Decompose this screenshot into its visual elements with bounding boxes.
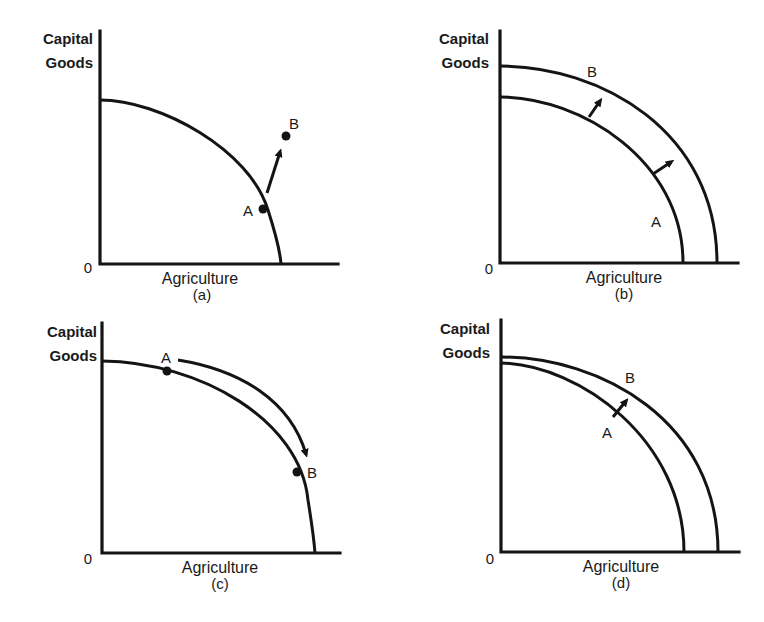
panel-b: Capital Goods 0 B A Agriculture (b) <box>439 30 738 302</box>
y-axis-label-line2: Goods <box>50 347 98 364</box>
origin-label: 0 <box>84 259 92 276</box>
ppf-curve-b <box>501 357 718 552</box>
panel-c: Capital Goods 0 A B Agriculture (c) <box>47 323 340 592</box>
panel-d: Capital Goods 0 B A Agriculture (d) <box>440 320 739 591</box>
ppf-curve-b <box>500 66 717 263</box>
y-axis-label-line1: Capital <box>43 30 93 47</box>
curve-a-label: A <box>651 213 661 230</box>
point-b-marker <box>293 468 302 477</box>
point-b-label: B <box>625 369 635 386</box>
curve-b-label: B <box>587 63 597 80</box>
ppf-curve <box>102 361 315 553</box>
movement-arrow <box>178 360 306 454</box>
panel-a: Capital Goods 0 A B Agriculture (a) <box>43 30 338 303</box>
x-axis-label: Agriculture <box>586 269 663 286</box>
point-a-label: A <box>602 424 612 441</box>
x-axis-label: Agriculture <box>162 270 239 287</box>
origin-label: 0 <box>84 550 92 567</box>
panel-caption: (c) <box>211 575 229 592</box>
panel-caption: (b) <box>615 285 633 302</box>
point-a-marker <box>259 205 268 214</box>
point-b-label: B <box>307 464 317 481</box>
origin-label: 0 <box>485 260 493 277</box>
ppf-curve <box>100 100 281 264</box>
shift-arrow-upper <box>589 101 600 117</box>
point-b-marker <box>282 132 291 141</box>
y-axis-label-line2: Goods <box>46 54 94 71</box>
y-axis-label-line1: Capital <box>440 320 490 337</box>
x-axis-label: Agriculture <box>583 558 660 575</box>
arrow-a-to-b <box>267 152 280 193</box>
y-axis-label-line2: Goods <box>443 344 491 361</box>
y-axis-label-line1: Capital <box>47 323 97 340</box>
origin-label: 0 <box>486 550 494 567</box>
shift-arrow-lower <box>653 162 671 174</box>
panel-caption: (d) <box>612 574 630 591</box>
x-axis-label: Agriculture <box>182 559 259 576</box>
axes <box>501 320 739 552</box>
axes <box>102 323 340 553</box>
panel-caption: (a) <box>193 286 211 303</box>
point-b-label: B <box>289 115 299 132</box>
y-axis-label-line2: Goods <box>442 54 490 71</box>
ppf-figure: Capital Goods 0 A B Agriculture (a) Capi… <box>0 0 764 622</box>
point-a-marker <box>163 367 172 376</box>
ppf-curve-a <box>501 363 684 552</box>
y-axis-label-line1: Capital <box>439 30 489 47</box>
axes <box>500 31 738 263</box>
point-a-label: A <box>243 202 253 219</box>
point-a-label: A <box>161 349 171 366</box>
